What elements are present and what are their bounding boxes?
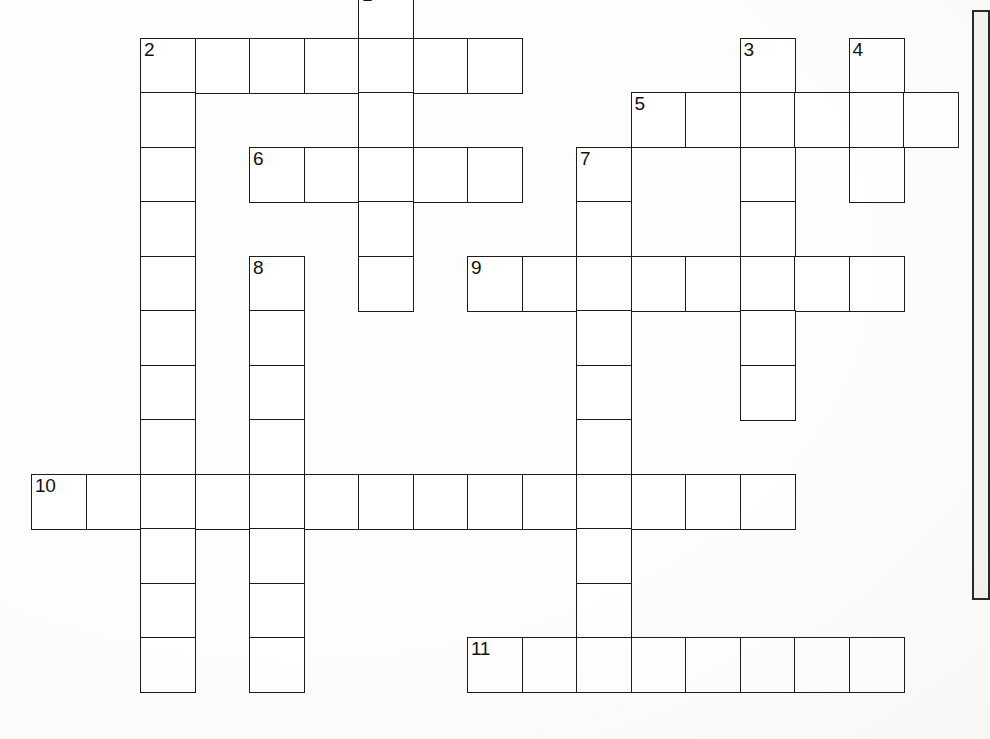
crossword-cell-numbered[interactable]: 5 xyxy=(631,92,687,148)
crossword-cell[interactable] xyxy=(249,365,305,421)
crossword-cell[interactable] xyxy=(794,637,850,693)
cell-number-1: 1 xyxy=(362,0,372,5)
crossword-cell[interactable] xyxy=(467,38,523,94)
crossword-cell[interactable] xyxy=(249,528,305,584)
crossword-cell[interactable] xyxy=(140,528,196,584)
crossword-cell-numbered[interactable]: 11 xyxy=(467,637,523,693)
crossword-cell-numbered[interactable]: 7 xyxy=(576,147,632,203)
crossword-cell[interactable] xyxy=(140,256,196,312)
crossword-cell[interactable] xyxy=(576,201,632,257)
crossword-puzzle-page: 1234567891011 xyxy=(0,0,990,739)
crossword-grid[interactable]: 1234567891011 xyxy=(0,0,990,739)
crossword-cell[interactable] xyxy=(522,256,578,312)
crossword-cell-numbered[interactable]: 2 xyxy=(140,38,196,94)
cell-number-6: 6 xyxy=(253,148,263,169)
crossword-cell[interactable] xyxy=(249,583,305,639)
cell-number-3: 3 xyxy=(744,39,754,60)
crossword-cell[interactable] xyxy=(195,38,251,94)
crossword-cell[interactable] xyxy=(576,419,632,475)
crossword-cell[interactable] xyxy=(631,637,687,693)
crossword-cell[interactable] xyxy=(522,637,578,693)
crossword-cell-numbered[interactable]: 8 xyxy=(249,256,305,312)
crossword-cell[interactable] xyxy=(249,310,305,366)
crossword-cell[interactable] xyxy=(140,637,196,693)
crossword-cell[interactable] xyxy=(849,92,905,148)
crossword-cell[interactable] xyxy=(140,583,196,639)
crossword-cell[interactable] xyxy=(576,637,632,693)
crossword-cell[interactable] xyxy=(140,92,196,148)
crossword-cell[interactable] xyxy=(685,256,741,312)
crossword-cell[interactable] xyxy=(794,92,850,148)
crossword-cell[interactable] xyxy=(740,310,796,366)
crossword-cell-numbered[interactable]: 9 xyxy=(467,256,523,312)
crossword-cell[interactable] xyxy=(249,38,305,94)
cell-number-4: 4 xyxy=(853,39,863,60)
crossword-cell[interactable] xyxy=(740,637,796,693)
crossword-cell[interactable] xyxy=(522,474,578,530)
crossword-cell[interactable] xyxy=(304,474,360,530)
crossword-cell[interactable] xyxy=(304,38,360,94)
crossword-cell[interactable] xyxy=(576,528,632,584)
crossword-cell[interactable] xyxy=(140,474,196,530)
crossword-cell-numbered[interactable]: 1 xyxy=(358,0,414,39)
crossword-cell[interactable] xyxy=(903,92,959,148)
crossword-cell[interactable] xyxy=(304,147,360,203)
cell-number-5: 5 xyxy=(635,93,645,114)
crossword-cell[interactable] xyxy=(413,38,469,94)
crossword-cell[interactable] xyxy=(794,256,850,312)
crossword-cell[interactable] xyxy=(358,38,414,94)
crossword-cell[interactable] xyxy=(740,365,796,421)
crossword-cell-numbered[interactable]: 4 xyxy=(849,38,905,94)
crossword-cell[interactable] xyxy=(576,365,632,421)
crossword-cell[interactable] xyxy=(685,637,741,693)
crossword-cell[interactable] xyxy=(140,310,196,366)
crossword-cell[interactable] xyxy=(576,310,632,366)
cell-number-8: 8 xyxy=(253,257,263,278)
crossword-cell[interactable] xyxy=(740,147,796,203)
crossword-cell[interactable] xyxy=(86,474,142,530)
cell-number-9: 9 xyxy=(471,257,481,278)
crossword-cell[interactable] xyxy=(467,147,523,203)
crossword-cell[interactable] xyxy=(740,474,796,530)
crossword-cell[interactable] xyxy=(140,201,196,257)
crossword-cell[interactable] xyxy=(358,92,414,148)
crossword-cell[interactable] xyxy=(740,201,796,257)
crossword-cell[interactable] xyxy=(631,474,687,530)
crossword-cell[interactable] xyxy=(413,147,469,203)
crossword-cell-numbered[interactable]: 10 xyxy=(31,474,87,530)
crossword-cell[interactable] xyxy=(358,474,414,530)
crossword-cell[interactable] xyxy=(740,256,796,312)
clue-panel-edge xyxy=(972,10,990,600)
crossword-cell[interactable] xyxy=(849,147,905,203)
crossword-cell[interactable] xyxy=(576,583,632,639)
crossword-cell[interactable] xyxy=(849,637,905,693)
cell-number-7: 7 xyxy=(580,148,590,169)
cell-number-10: 10 xyxy=(35,475,55,496)
crossword-cell[interactable] xyxy=(849,256,905,312)
crossword-cell[interactable] xyxy=(195,474,251,530)
crossword-cell[interactable] xyxy=(631,256,687,312)
crossword-cell[interactable] xyxy=(740,92,796,148)
crossword-cell[interactable] xyxy=(358,147,414,203)
crossword-cell[interactable] xyxy=(249,419,305,475)
cell-number-2: 2 xyxy=(144,39,154,60)
crossword-cell[interactable] xyxy=(140,365,196,421)
crossword-cell[interactable] xyxy=(685,474,741,530)
crossword-cell[interactable] xyxy=(576,256,632,312)
crossword-cell[interactable] xyxy=(140,147,196,203)
crossword-cell-numbered[interactable]: 6 xyxy=(249,147,305,203)
cell-number-11: 11 xyxy=(471,638,490,659)
crossword-cell[interactable] xyxy=(576,474,632,530)
crossword-cell[interactable] xyxy=(467,474,523,530)
crossword-cell[interactable] xyxy=(685,92,741,148)
crossword-cell[interactable] xyxy=(140,419,196,475)
crossword-cell[interactable] xyxy=(358,201,414,257)
crossword-cell[interactable] xyxy=(358,256,414,312)
crossword-cell[interactable] xyxy=(249,637,305,693)
crossword-cell[interactable] xyxy=(249,474,305,530)
crossword-cell[interactable] xyxy=(413,474,469,530)
crossword-cell-numbered[interactable]: 3 xyxy=(740,38,796,94)
